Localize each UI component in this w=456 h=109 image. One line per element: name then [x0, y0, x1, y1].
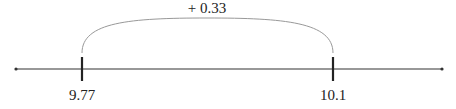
- left-arrow-end: [14, 67, 17, 70]
- start-value-label: 9.77: [69, 87, 95, 104]
- jump-label: + 0.33: [188, 0, 226, 17]
- end-value-label: 10.1: [320, 87, 346, 104]
- right-arrow-end: [440, 67, 443, 70]
- jump-arc: [82, 18, 333, 53]
